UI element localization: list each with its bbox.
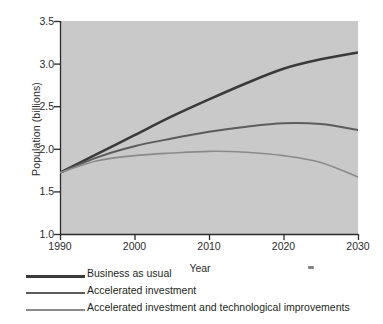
x-axis-tick-labels: 19902000201020202030 [0,240,383,256]
x-tick-label-2000: 2000 [109,240,161,252]
x-tick-label-2010: 2010 [183,240,235,252]
legend-item[interactable]: Accelerated investment and technological… [0,302,383,319]
chart-legend: Business as usualAccelerated investmentA… [0,268,383,319]
x-tick-label-2030: 2030 [332,240,383,252]
legend-line-swatch [26,309,85,311]
legend-line-swatch [26,275,85,278]
legend-item-label: Accelerated investment [87,283,196,297]
x-tick-label-1990: 1990 [34,240,86,252]
legend-item-label: Business as usual [87,266,172,280]
legend-line-swatch [26,292,85,294]
x-tick-label-2020: 2020 [258,240,310,252]
population-projection-chart: Population (billions) 1.01.52.02.53.03.5… [0,0,383,324]
legend-item-label: Accelerated investment and technological… [87,300,350,314]
y-axis-ticks [54,22,60,235]
plot-area-background [60,21,358,234]
